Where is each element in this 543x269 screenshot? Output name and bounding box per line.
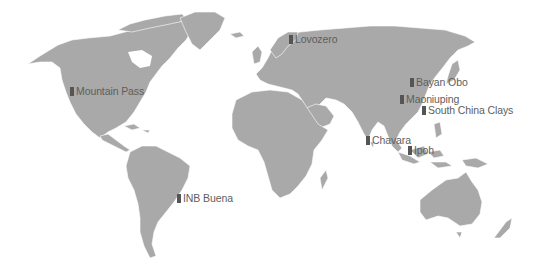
site-marker-bayan-obo[interactable]: Bayan Obo xyxy=(410,76,468,88)
landmass-greenland xyxy=(180,12,225,50)
landmass-new-guinea xyxy=(462,158,488,168)
landmass-north-america xyxy=(28,20,192,138)
site-label: Mountain Pass xyxy=(76,85,144,97)
site-marker-ipoh[interactable]: Ipoh xyxy=(408,144,434,156)
site-marker-lovozero[interactable]: Lovozero xyxy=(289,33,337,45)
site-marker-south-china-clays[interactable]: South China Clays xyxy=(422,104,513,116)
landmass-new-zealand xyxy=(494,218,512,238)
marker-pin-icon xyxy=(289,35,293,44)
landmass-caribbean xyxy=(124,124,150,133)
marker-pin-icon xyxy=(177,194,181,203)
site-label: South China Clays xyxy=(428,104,513,116)
landmass-iceland xyxy=(230,32,244,38)
site-label: Lovozero xyxy=(295,33,337,45)
landmass-australia xyxy=(420,172,482,226)
landmass-british-isles xyxy=(252,46,262,64)
marker-pin-icon xyxy=(422,106,426,115)
site-label: Chavara xyxy=(372,134,411,146)
site-label: INB Buena xyxy=(183,192,233,204)
site-marker-inb-buena[interactable]: INB Buena xyxy=(177,192,233,204)
site-label: Bayan Obo xyxy=(416,76,468,88)
marker-pin-icon xyxy=(366,136,370,145)
world-map xyxy=(0,0,543,269)
landmass-central-america xyxy=(100,134,130,152)
site-marker-mountain-pass[interactable]: Mountain Pass xyxy=(70,85,144,97)
marker-pin-icon xyxy=(408,146,412,155)
site-label: Ipoh xyxy=(414,144,434,156)
landmass-madagascar xyxy=(320,170,328,190)
landmass-tasmania xyxy=(456,232,462,238)
marker-pin-icon xyxy=(410,78,414,87)
marker-pin-icon xyxy=(400,95,404,104)
marker-pin-icon xyxy=(70,87,74,96)
landmass-philippines xyxy=(434,122,442,138)
site-marker-chavara[interactable]: Chavara xyxy=(366,134,411,146)
